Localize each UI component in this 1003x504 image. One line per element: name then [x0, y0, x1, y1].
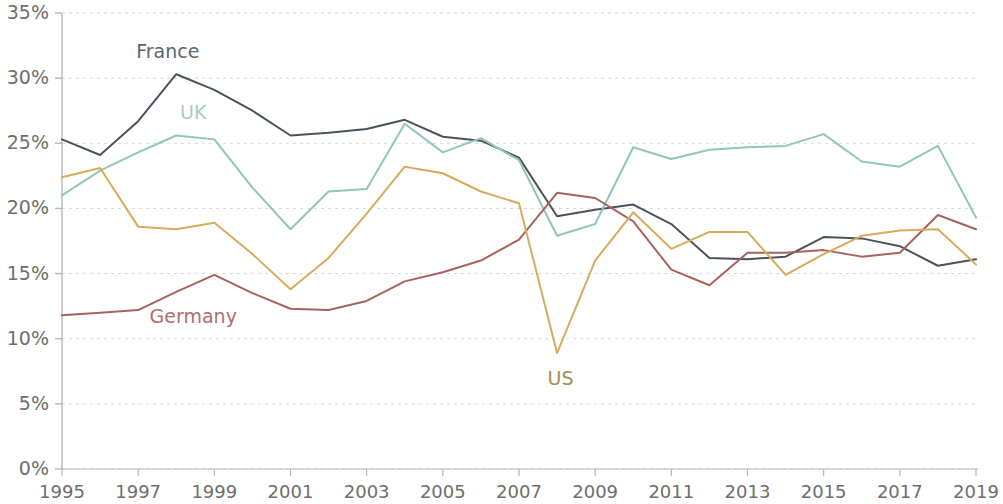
y-axis-label-35pct: 35% [0, 1, 49, 23]
series-label-france: France [136, 40, 199, 62]
y-axis-label-10pct: 10% [0, 327, 49, 349]
x-axis-label-1995: 1995 [22, 481, 102, 502]
y-axis-label-5pct: 5% [0, 392, 49, 414]
y-axis-label-20pct: 20% [0, 196, 49, 218]
series-label-germany: Germany [150, 305, 237, 327]
x-axis-label-1997: 1997 [98, 481, 178, 502]
y-axis-label-15pct: 15% [0, 262, 49, 284]
x-axis-label-2011: 2011 [631, 481, 711, 502]
y-axis-label-0pct: 0% [0, 457, 49, 479]
x-axis-label-2013: 2013 [708, 481, 788, 502]
y-axis-label-25pct: 25% [0, 131, 49, 153]
series-line-uk [62, 124, 976, 236]
series-label-us: US [548, 367, 574, 389]
x-axis-label-2005: 2005 [403, 481, 483, 502]
x-axis-label-2001: 2001 [251, 481, 331, 502]
x-axis-label-2017: 2017 [860, 481, 940, 502]
y-axis-label-30pct: 30% [0, 66, 49, 88]
series-line-germany [62, 193, 976, 315]
series-label-uk: UK [180, 101, 206, 123]
x-axis-label-2015: 2015 [784, 481, 864, 502]
x-axis-label-2009: 2009 [555, 481, 635, 502]
x-axis-label-2007: 2007 [479, 481, 559, 502]
x-axis-label-2003: 2003 [327, 481, 407, 502]
x-axis-label-1999: 1999 [174, 481, 254, 502]
x-axis-label-2019: 2019 [936, 481, 1003, 502]
